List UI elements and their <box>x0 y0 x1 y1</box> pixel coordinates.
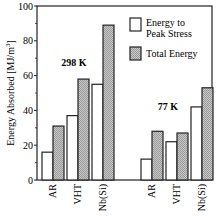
category-label: VHT <box>72 184 83 205</box>
category-label: VHT <box>171 184 182 205</box>
bar-energy-to-peak-stress <box>67 116 78 180</box>
bar-total-energy <box>202 88 213 180</box>
category-label: Nb(Si) <box>196 184 208 211</box>
bar-energy-to-peak-stress <box>141 159 152 180</box>
bar-energy-to-peak-stress <box>92 84 103 180</box>
bar-chart: 020406080100Energy Absorbed [MJ/m3] ARVH… <box>0 0 218 216</box>
category-label: AR <box>146 184 157 198</box>
group-label-77k: 77 K <box>158 101 179 112</box>
y-tick-label: 80 <box>23 35 33 46</box>
y-tick-label: 0 <box>28 175 33 186</box>
bar-total-energy <box>177 133 188 180</box>
legend-label: Energy to <box>146 17 185 28</box>
y-tick-label: 100 <box>18 1 33 12</box>
legend-swatch-total-energy <box>130 47 141 60</box>
y-tick-label: 20 <box>23 140 33 151</box>
legend-label: Total Energy <box>146 48 198 59</box>
y-tick-label: 60 <box>23 70 33 81</box>
bar-energy-to-peak-stress <box>166 142 177 180</box>
category-label: AR <box>47 184 58 198</box>
bar-energy-to-peak-stress <box>42 152 53 180</box>
category-label: Nb(Si) <box>97 184 109 211</box>
bar-energy-to-peak-stress <box>191 107 202 180</box>
bar-total-energy <box>78 79 89 180</box>
bar-total-energy <box>103 25 114 180</box>
legend-swatch-energy-to-peak-stress <box>130 18 141 31</box>
y-tick-label: 40 <box>23 105 33 116</box>
legend: Energy toPeak StressTotal Energy <box>130 17 198 60</box>
legend-label: Peak Stress <box>146 28 192 39</box>
y-axis-label: Energy Absorbed [MJ/m3] <box>4 40 16 146</box>
bar-total-energy <box>53 126 64 180</box>
group-label-298k: 298 K <box>61 57 87 68</box>
bar-total-energy <box>152 131 163 180</box>
